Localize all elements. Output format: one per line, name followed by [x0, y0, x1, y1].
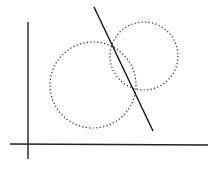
right-circle: [110, 22, 178, 90]
x-axis: [10, 144, 208, 145]
geometry-diagram: [0, 0, 218, 169]
line-through-intersections: [94, 7, 153, 131]
left-circle: [50, 42, 136, 128]
